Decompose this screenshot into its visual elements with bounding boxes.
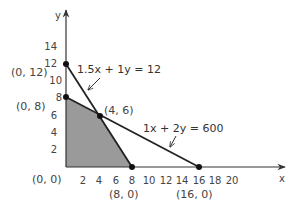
x-tick-labels: 2 4 6 8 10 12 14 16 18 20 xyxy=(80,175,239,186)
point-label-8-0: (8, 0) xyxy=(109,188,139,201)
svg-text:14: 14 xyxy=(176,175,189,186)
svg-text:8: 8 xyxy=(56,92,62,103)
equation-label-2: 1x + 2y = 600 xyxy=(143,122,223,135)
svg-text:4: 4 xyxy=(51,127,57,138)
svg-text:4: 4 xyxy=(96,175,102,186)
svg-text:10: 10 xyxy=(143,175,156,186)
y-axis-label: y xyxy=(55,10,61,21)
point-label-4-6: (4, 6) xyxy=(104,104,134,117)
point-label-0-8: (0, 8) xyxy=(16,100,46,113)
svg-text:12: 12 xyxy=(160,175,173,186)
equation-label-1: 1.5x + 1y = 12 xyxy=(77,63,161,76)
y-tick-labels: 2 4 6 8 10 12 14 xyxy=(44,41,62,155)
svg-text:6: 6 xyxy=(51,110,57,121)
point-label-16-0: (16, 0) xyxy=(176,188,213,201)
svg-text:16: 16 xyxy=(193,175,206,186)
svg-text:6: 6 xyxy=(113,175,119,186)
point-label-0-0: (0, 0) xyxy=(32,173,62,186)
equation-arrow-2 xyxy=(170,136,176,147)
x-axis-label: x xyxy=(279,173,285,184)
svg-text:8: 8 xyxy=(129,175,135,186)
svg-text:18: 18 xyxy=(209,175,222,186)
svg-text:14: 14 xyxy=(44,41,57,52)
svg-text:20: 20 xyxy=(226,175,239,186)
chart: x y 2 4 6 8 10 12 14 2 4 6 8 10 12 14 16… xyxy=(0,0,294,212)
svg-text:2: 2 xyxy=(51,144,57,155)
point-label-0-12: (0, 12) xyxy=(11,66,48,79)
equation-arrow-1 xyxy=(88,78,100,90)
svg-text:10: 10 xyxy=(49,75,62,86)
svg-text:2: 2 xyxy=(80,175,86,186)
